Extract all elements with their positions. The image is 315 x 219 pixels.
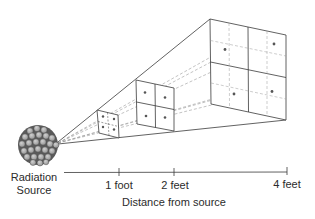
radiation-source-icon	[18, 125, 59, 166]
axis-title: Distance from source	[122, 196, 226, 208]
tick-label-2-feet: 2 feet	[161, 179, 189, 191]
tick-label-4-feet: 4 feet	[273, 178, 301, 190]
panel-1-foot	[97, 110, 119, 138]
source-label-line1: Radiation	[11, 171, 57, 183]
source-label-line2: Source	[17, 184, 52, 196]
panel-2-feet	[136, 80, 174, 131]
tick-label-1-foot: 1 foot	[105, 179, 133, 191]
distance-axis	[64, 167, 287, 176]
panel-4-feet	[210, 19, 286, 120]
